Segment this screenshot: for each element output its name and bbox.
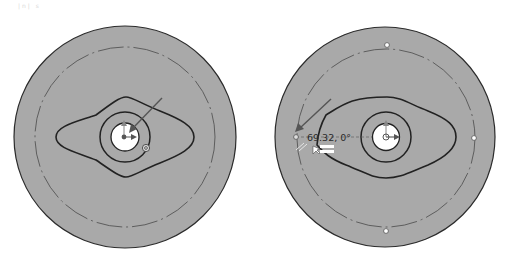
grip-right[interactable] [472,136,477,141]
right-disk-view[interactable]: 69.32, 0° [275,27,495,247]
grip-left[interactable] [294,135,299,140]
left-disk-view[interactable] [14,26,236,248]
cad-canvas[interactable]: |n| s [0,0,511,267]
dimension-readout: 69.32, 0° [307,132,351,143]
sketch-drawing[interactable]: 69.32, 0° [0,0,511,267]
origin-point-icon [122,135,127,140]
concentric-snap-icon[interactable] [142,144,149,151]
grip-top[interactable] [385,43,390,48]
grip-bottom[interactable] [384,229,389,234]
